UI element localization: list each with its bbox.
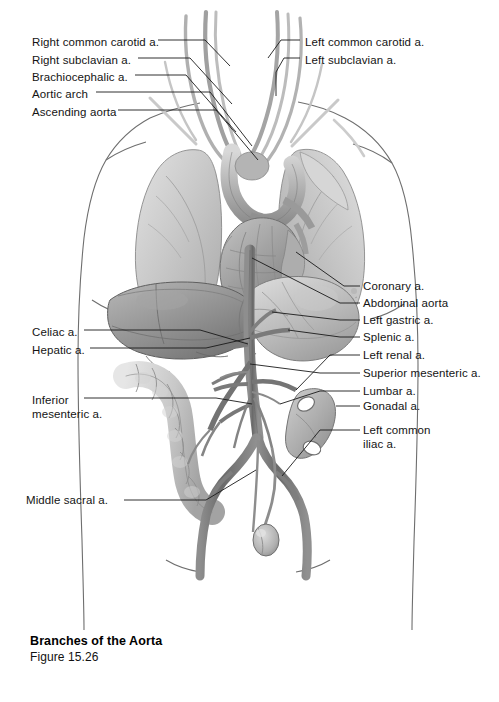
- label-gonadal: Gonadal a.: [363, 400, 420, 414]
- label-left-common-iliac: Left common iliac a.: [363, 424, 431, 451]
- label-celiac: Celiac a.: [32, 326, 78, 340]
- label-left-gastric: Left gastric a.: [363, 314, 434, 328]
- liver: [108, 282, 254, 372]
- label-brachiocephalic: Brachiocephalic a.: [32, 71, 128, 85]
- label-lumbar: Lumbar a.: [363, 385, 416, 399]
- label-left-renal: Left renal a.: [363, 349, 425, 363]
- label-hepatic: Hepatic a.: [32, 344, 85, 358]
- stomach: [239, 276, 359, 360]
- label-right-common-carotid: Right common carotid a.: [32, 36, 159, 50]
- label-right-subclavian: Right subclavian a.: [32, 54, 131, 68]
- gonad: [253, 524, 279, 556]
- label-ascending-aorta: Ascending aorta: [32, 106, 117, 120]
- label-inferior-mesenteric: Inferior mesenteric a.: [32, 394, 102, 421]
- label-abdominal-aorta: Abdominal aorta: [363, 297, 448, 311]
- label-left-common-carotid: Left common carotid a.: [305, 36, 424, 50]
- figure-caption-number: Figure 15.26: [30, 650, 99, 664]
- label-coronary: Coronary a.: [363, 280, 424, 294]
- neck-vessels: [150, 12, 364, 160]
- kidney: [286, 389, 336, 459]
- label-superior-mesenteric: Superior mesenteric a.: [363, 367, 481, 381]
- anatomy-figure: Right common carotid a. Right subclavian…: [0, 0, 499, 702]
- label-aortic-arch: Aortic arch: [32, 88, 88, 102]
- descending-colon: [126, 364, 212, 512]
- label-splenic: Splenic a.: [363, 331, 415, 345]
- figure-caption-title: Branches of the Aorta: [30, 634, 162, 648]
- label-left-subclavian: Left subclavian a.: [305, 54, 396, 68]
- label-middle-sacral: Middle sacral a.: [26, 494, 108, 508]
